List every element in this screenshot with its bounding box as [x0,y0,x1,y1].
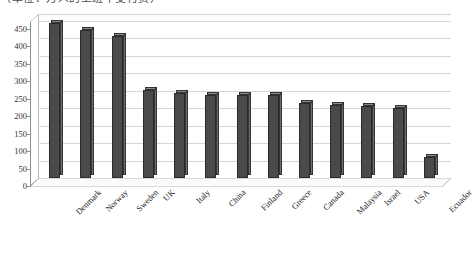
y-axis-tick-label: 50 [1,165,27,173]
x-axis-label: Canada [322,188,346,212]
bar-side-face [372,103,375,175]
y-axis-tick-label: 0 [1,182,27,190]
x-axis-label: Norway [104,188,130,214]
bar [361,106,372,178]
y-axis-tick-mark [27,46,31,47]
bar-front-face [112,36,123,178]
bar [143,90,154,178]
x-axis-label: Ecuador [448,188,474,214]
x-axis-label: Denmark [74,188,103,217]
bar-front-face [299,103,310,178]
bar-top-face [207,92,218,95]
bar-top-face [145,87,156,90]
bar-side-face [185,90,188,175]
bar-front-face [174,93,185,178]
plot-floor [30,178,451,187]
y-axis-tick-mark [27,81,31,82]
bar [49,23,60,178]
bar-front-face [330,105,341,178]
bar [237,95,248,178]
y-axis-tick-mark [27,151,31,152]
bar-top-face [270,92,281,95]
bar-top-face [426,154,437,157]
bar-top-face [51,20,62,23]
bar-top-face [332,102,343,105]
x-axis-label: Italy [194,188,211,205]
bar [80,30,91,178]
bar-front-face [361,106,372,178]
bar-side-face [216,92,219,175]
bar-side-face [154,87,157,175]
y-axis-tick-label: 450 [1,25,27,33]
bar-top-face [395,105,406,108]
bar [330,105,341,178]
bar-front-face [143,90,154,178]
gridline [38,56,451,57]
bar-front-face [237,95,248,178]
y-axis-tick-label: 300 [1,77,27,85]
bar-front-face [205,95,216,178]
y-axis-tick-label: 250 [1,95,27,103]
y-axis-tick-mark [27,64,31,65]
y-axis-tick-label: 200 [1,112,27,120]
bar-top-face [114,33,125,36]
bar [174,93,185,178]
bar-top-face [363,103,374,106]
bar [268,95,279,178]
bar-top-face [301,100,312,103]
bar [205,95,216,178]
x-axis-label: USA [413,188,431,206]
bar-side-face [341,102,344,175]
x-axis-labels: DenmarkNorwaySwedenUKItalyChinaFinlandGr… [30,188,451,254]
bar [393,108,404,178]
x-axis-label: Finland [260,188,285,213]
bar-side-face [248,92,251,175]
x-axis-label: China [227,188,248,209]
chart-caption-strip: （单位：万人的上班不受付费） [0,0,451,7]
x-axis-label: Israel [382,188,402,208]
y-axis-tick-mark [27,116,31,117]
bar-side-face [91,27,94,175]
plot-area: 050100150200250300350400450 [30,14,451,186]
bar-front-face [80,30,91,178]
y-axis-tick-label: 100 [1,147,27,155]
y-axis-tick-label: 400 [1,42,27,50]
x-axis-label: Malaysia [355,188,383,216]
y-axis-tick-mark [27,29,31,30]
bar-side-face [279,92,282,175]
bar-top-face [239,92,250,95]
bar [424,157,435,178]
bar-side-face [60,20,63,175]
gridline [38,38,451,39]
y-axis-tick-label: 350 [1,60,27,68]
y-axis-tick-mark [27,169,31,170]
bar-side-face [123,33,126,175]
bar-front-face [49,23,60,178]
y-axis-tick-mark [27,99,31,100]
bar [299,103,310,178]
chart-caption-text: （单位：万人的上班不受付费） [0,0,451,7]
y-axis-tick-mark [27,134,31,135]
bar-side-face [404,105,407,175]
y-axis-tick-label: 150 [1,130,27,138]
x-axis-label: UK [162,188,177,203]
x-axis-label: Sweden [135,188,160,213]
bar-top-face [176,90,187,93]
bar-side-face [310,100,313,175]
gridline [38,21,451,22]
bar-front-face [393,108,404,178]
bar-side-face [435,154,438,175]
bar-front-face [424,157,435,178]
bar [112,36,123,178]
bar-front-face [268,95,279,178]
bar-top-face [82,27,93,30]
gridline [38,73,451,74]
x-axis-label: Greece [290,188,313,211]
